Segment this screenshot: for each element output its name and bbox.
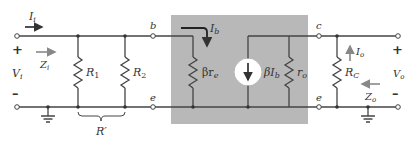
- label-io: Io: [355, 46, 364, 59]
- label-vi-minus: –: [12, 86, 19, 101]
- label-vo-minus: –: [392, 86, 399, 101]
- node-b: [151, 34, 156, 39]
- label-zi: Zi: [39, 59, 49, 72]
- label-vo-plus: +: [392, 42, 403, 57]
- node-c: [317, 34, 322, 39]
- label-rprime: R′: [95, 125, 107, 138]
- ground-icon-input: [41, 116, 55, 122]
- node-e-in: [151, 105, 156, 110]
- label-rc: RC: [344, 66, 359, 80]
- label-node-c: c: [316, 20, 322, 31]
- circuit-diagram: Ii + – Zi Vi R1 R2 R′ b e c e Ib βre βIb…: [0, 0, 417, 141]
- resistor-rc: [333, 57, 341, 88]
- resistor-r1: [74, 57, 82, 88]
- label-node-b: b: [150, 20, 156, 31]
- ground-icon-output: [361, 116, 375, 122]
- terminal-output-bottom: [396, 105, 401, 110]
- label-vi: Vi: [12, 67, 23, 81]
- node-e-out: [317, 105, 322, 110]
- label-node-e-in: e: [150, 92, 156, 103]
- resistor-r2: [121, 57, 129, 88]
- label-r2: R2: [132, 66, 146, 80]
- label-vo: Vo: [393, 68, 404, 81]
- label-vi-plus: +: [12, 42, 23, 57]
- rprime-brace: [78, 112, 125, 121]
- label-node-e-out: e: [316, 92, 322, 103]
- label-zo: Zo: [364, 91, 376, 104]
- terminal-output-top: [396, 34, 401, 39]
- terminal-input-bottom: [15, 105, 20, 110]
- terminal-input-top: [15, 34, 20, 39]
- label-ii: Ii: [28, 10, 36, 24]
- label-r1: R1: [85, 66, 99, 80]
